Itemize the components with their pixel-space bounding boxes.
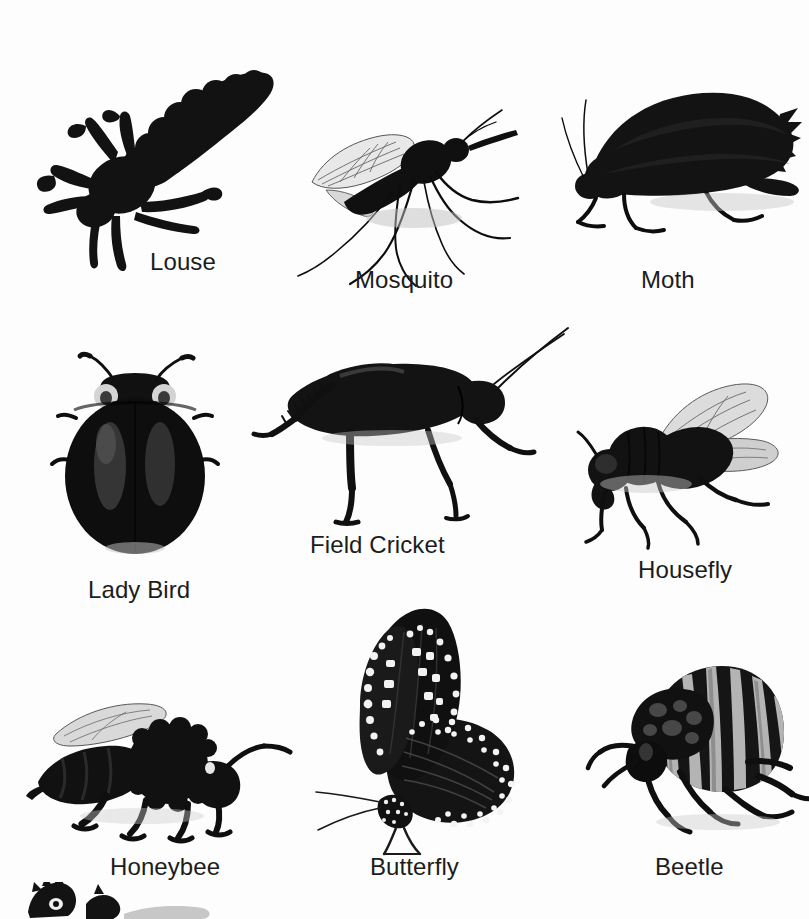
specimen-housefly — [566, 378, 794, 542]
caption-lady-bird: Lady Bird — [88, 578, 190, 602]
specimen-honeybee — [22, 690, 294, 836]
specimen-partial-bottom-left — [20, 882, 210, 919]
partial-insect-photo — [20, 882, 210, 919]
louse-photo — [30, 52, 280, 252]
caption-beetle: Beetle — [655, 855, 724, 879]
specimen-beetle — [598, 652, 798, 834]
butterfly-photo — [326, 602, 526, 840]
specimen-moth — [552, 74, 802, 250]
specimen-field-cricket — [232, 326, 544, 528]
specimen-lady-bird — [48, 348, 222, 560]
caption-butterfly: Butterfly — [370, 855, 459, 879]
mosquito-photo — [296, 86, 542, 268]
specimen-mosquito — [296, 86, 542, 268]
housefly-photo — [566, 378, 794, 542]
caption-moth: Moth — [641, 268, 695, 292]
caption-field-cricket: Field Cricket — [310, 533, 445, 557]
beetle-photo — [598, 652, 798, 834]
caption-louse: Louse — [150, 250, 216, 274]
lady-bird-photo — [48, 348, 222, 560]
specimen-louse — [30, 52, 280, 252]
caption-housefly: Housefly — [638, 558, 732, 582]
caption-mosquito: Mosquito — [355, 268, 453, 292]
honeybee-photo — [22, 690, 294, 836]
insect-chart-page: Louse — [0, 0, 809, 919]
caption-honeybee: Honeybee — [110, 855, 220, 879]
moth-photo — [552, 74, 802, 250]
field-cricket-photo — [232, 326, 544, 528]
specimen-butterfly — [326, 602, 526, 840]
